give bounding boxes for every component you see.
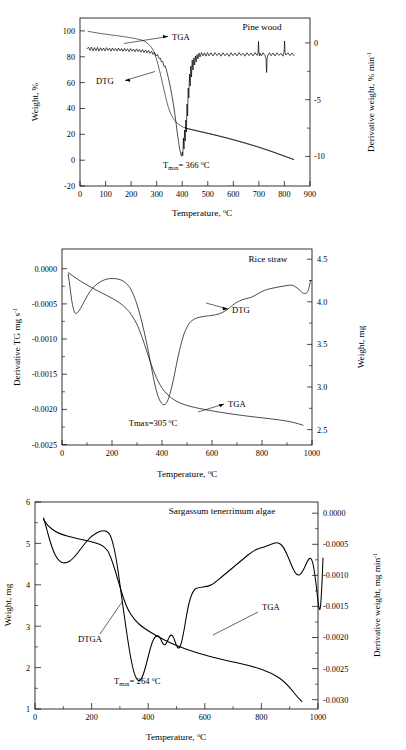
- figure-container: 0 100 200 300 400 500 600 700 800 900: [0, 0, 406, 750]
- y-tick-label: 20: [67, 130, 75, 139]
- x-axis-title-main: Temperature,: [157, 469, 208, 479]
- y2-axis-tick-labels: 0.0000 -0.0005 -0.0010 -0.0015 -0.0020 -…: [323, 509, 348, 704]
- tmax-value: = 264: [130, 676, 152, 686]
- x-axis-title-main: Temperature,: [172, 208, 223, 218]
- x-tick-label: 800: [278, 190, 290, 199]
- panel-title: Rice straw: [248, 254, 287, 264]
- curve-dtg: [87, 41, 294, 156]
- x-axis-unit: C: [200, 732, 206, 742]
- annotation-tga: TGA: [213, 602, 280, 635]
- x-tick-label: 200: [85, 713, 97, 722]
- panel-sargassum-algae-svg: 0 200 400 600 800 1000: [0, 492, 406, 750]
- x-tick-label: 800: [256, 449, 268, 458]
- y-axis-ticks: [35, 502, 41, 709]
- y-tick-label: 5: [26, 540, 30, 549]
- annotation-dtga: DTGA: [78, 602, 122, 644]
- svg-text:Tmax= 366 oC: Tmax= 366 oC: [163, 160, 210, 171]
- x-tick-label: 1000: [310, 713, 326, 722]
- y2-tick-label: 2.5: [317, 426, 327, 435]
- tmax-unit: C: [172, 418, 178, 428]
- y2-tick-label: 0: [314, 39, 318, 48]
- y2-tick-label: 3.0: [317, 383, 327, 392]
- panel-title: Pine wood: [242, 22, 281, 32]
- x-axis-tick-labels: 0 200 400 600 800 1000: [60, 449, 320, 458]
- y2-axis-title-main: Derivative weight, % min: [366, 57, 376, 152]
- annotation-tga-label: TGA: [228, 399, 246, 409]
- tmax-subscript: max: [168, 165, 178, 171]
- annotation-dtg-label: DTG: [232, 305, 250, 315]
- y2-tick-label: 3.5: [317, 340, 327, 349]
- y2-axis-title: Derivative weight, % min-1: [366, 52, 376, 152]
- y-tick-label: -0.0020: [32, 405, 57, 414]
- annotation-dtg: DTG: [96, 72, 155, 87]
- y2-axis-tick-labels: 0 -5 -10: [314, 39, 325, 162]
- curve-dtg: [68, 274, 310, 404]
- x-axis-tick-labels: 0 200 400 600 800 1000: [33, 713, 326, 722]
- x-tick-label: 100: [99, 190, 111, 199]
- y-tick-label: -20: [64, 182, 75, 191]
- x-axis-ticks: [80, 181, 310, 186]
- x-tick-label: 400: [142, 713, 154, 722]
- y-tick-label: 0.0000: [34, 265, 57, 274]
- y-axis-title-main: Derivative TG mg s: [12, 313, 22, 386]
- x-tick-label: 0: [33, 713, 37, 722]
- x-tick-label: 800: [255, 713, 267, 722]
- x-axis-ticks: [62, 440, 312, 445]
- y-tick-label: 3: [26, 623, 30, 632]
- panel-title: Sargassum tenerrimum algae: [169, 506, 275, 516]
- y-axis-exponent: -1: [12, 308, 18, 313]
- tmax-value: Tmax=305: [129, 418, 169, 428]
- x-axis-title: Temperature, oC: [146, 732, 206, 742]
- curve-tga-tail: [186, 128, 284, 156]
- y2-tick-label: -0.0015: [323, 602, 348, 611]
- y2-axis-ticks: [312, 513, 318, 700]
- x-tick-label: 500: [202, 190, 214, 199]
- x-tick-label: 200: [106, 449, 118, 458]
- x-axis-unit: C: [211, 469, 217, 479]
- y-axis-tick-labels: 100 80 60 40 20 0 -20: [63, 27, 75, 191]
- x-axis-title: Temperature, oC: [172, 208, 232, 218]
- y2-tick-label: -0.0005: [323, 540, 348, 549]
- x-axis-title-main: Temperature,: [146, 732, 197, 742]
- x-tick-label: 600: [199, 713, 211, 722]
- y2-tick-label: 4.0: [317, 298, 327, 307]
- y-tick-label: -0.0015: [32, 370, 57, 379]
- x-tick-label: 400: [156, 449, 168, 458]
- y-tick-label: 2: [26, 664, 30, 673]
- x-tick-label: 200: [125, 190, 137, 199]
- y2-tick-label: -5: [314, 96, 321, 105]
- y-tick-label: 60: [67, 79, 75, 88]
- annotation-tmax: Tmax= 264 oC: [114, 676, 161, 687]
- x-axis-tick-labels: 0 100 200 300 400 500 600 700 800 900: [78, 190, 316, 199]
- annotation-dtg: DTG: [206, 303, 250, 315]
- x-tick-label: 0: [60, 449, 64, 458]
- y2-tick-label: -0.0010: [323, 571, 348, 580]
- y-tick-label: 1: [26, 705, 30, 714]
- y2-axis-title: Derivative weight, mg min-1: [372, 553, 382, 657]
- tmax-value: = 366: [179, 160, 201, 170]
- curve-tga: [68, 273, 303, 426]
- y2-axis-tick-labels: 4.5 4.0 3.5 3.0 2.5: [317, 255, 327, 434]
- x-tick-label: 0: [78, 190, 82, 199]
- y2-axis-title-main: Derivative weight, mg min: [372, 558, 382, 657]
- tmax-unit: C: [204, 160, 210, 170]
- plot-frame: [62, 249, 312, 445]
- arrow-head: [163, 35, 168, 38]
- panel-pine-wood-svg: 0 100 200 300 400 500 600 700 800 900: [0, 0, 406, 235]
- curve-dtga: [44, 518, 324, 681]
- y-tick-label: 100: [63, 27, 75, 36]
- x-axis-title: Temperature, oC: [157, 469, 217, 479]
- x-axis-ticks: [35, 703, 318, 709]
- annotation-tga-label: TGA: [172, 32, 190, 42]
- arrow-head: [219, 404, 224, 407]
- annotation-tga: TGA: [124, 32, 190, 44]
- x-tick-label: 400: [176, 190, 188, 199]
- tmax-unit: C: [155, 676, 161, 686]
- y-axis-ticks: [80, 31, 85, 186]
- y-tick-label: 40: [67, 104, 75, 113]
- x-tick-label: 600: [227, 190, 239, 199]
- annotation-dtga-label: DTGA: [78, 634, 103, 644]
- y-axis-tick-labels: 0.0000 -0.0005 -0.0010 -0.0015 -0.0020 -…: [32, 265, 57, 450]
- y2-axis-exponent: -1: [366, 52, 372, 57]
- y2-tick-label: -0.0020: [323, 633, 348, 642]
